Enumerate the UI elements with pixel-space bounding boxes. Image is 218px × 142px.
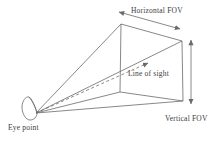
fov-diagram: Horizontal FOV Line of sight Vertical FO… [0, 0, 218, 142]
far-plane [120, 24, 183, 101]
horizontal-fov-label: Horizontal FOV [131, 6, 183, 15]
vertical-fov-label: Vertical FOV [165, 114, 208, 123]
eye-point-label: Eye point [8, 123, 39, 132]
eye-icon [22, 97, 37, 120]
frustum-edge-top-left [36, 24, 121, 113]
line-of-sight-label: Line of sight [128, 69, 169, 78]
